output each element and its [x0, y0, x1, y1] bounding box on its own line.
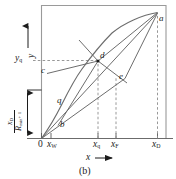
figure-caption: (b)	[79, 166, 91, 176]
point-label-b: b	[60, 120, 65, 129]
intercept-num-sub: D	[9, 118, 14, 122]
intercept-fraction: xD Rmin+ 1	[6, 110, 24, 133]
x-tick-zero-main: 0	[38, 139, 43, 149]
dashed-guide-lines	[33, 13, 158, 139]
point-label-q: q	[57, 96, 62, 105]
intercept-den-plus: + 1	[17, 112, 22, 119]
intercept-num-main: x	[5, 121, 14, 125]
y-tick-yq-sub: q	[19, 57, 22, 63]
intercept-den-main: R	[14, 126, 23, 131]
x-tick-label-xW: xW	[47, 140, 57, 150]
point-label-c: c	[41, 66, 45, 75]
x-tick-xq-sub: q	[97, 143, 100, 149]
intercept-fraction-label: xD Rmin+ 1	[6, 110, 24, 133]
point-label-d: d	[100, 51, 105, 60]
distillation-diagram-figure: y yq xD Rmin+ 1 0 xW xq xF xD x a b c d …	[0, 0, 176, 179]
y-axis-label: y	[27, 54, 37, 58]
x-tick-xW-sub: W	[51, 143, 57, 149]
x-tick-label-xD: xD	[152, 140, 160, 150]
point-label-e: e	[119, 72, 123, 81]
x-axis-label: x	[86, 153, 90, 163]
intercept-denominator: Rmin+ 1	[14, 110, 23, 133]
point-label-a: a	[159, 14, 164, 23]
x-tick-xF-sub: F	[115, 143, 118, 149]
intercept-den-sub: min	[18, 118, 23, 126]
stripping-operating-line	[58, 61, 98, 126]
x-tick-label-xq: xq	[93, 140, 100, 150]
diagonal-45-line	[42, 13, 158, 139]
y-tick-label-yq: yq	[15, 54, 22, 64]
x-tick-label-xF: xF	[111, 140, 119, 150]
x-axis-ticks	[42, 133, 158, 139]
x-tick-label-zero: 0	[38, 140, 43, 150]
x-tick-xD-sub: D	[156, 143, 160, 149]
intercept-numerator: xD	[6, 110, 14, 133]
